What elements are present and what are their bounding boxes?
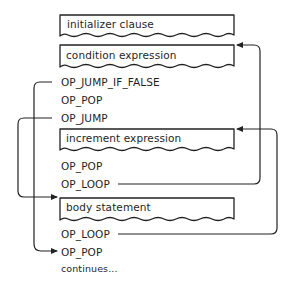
op-loop-label-1: OP_LOOP [61, 178, 110, 190]
initializer-clause-label: initializer clause [67, 18, 154, 30]
loop-to-increment-arrow [118, 129, 277, 234]
op-jump-label: OP_JUMP [61, 112, 108, 124]
condition-expression-label: condition expression [66, 49, 177, 61]
body-statement-label: body statement [66, 201, 151, 213]
op-pop-label-3: OP_POP [61, 246, 102, 258]
continues-label: continues... [61, 263, 118, 275]
jump-arrow [18, 118, 57, 197]
control-flow-diagram [0, 0, 291, 288]
jump-if-false-arrow [34, 82, 57, 251]
op-pop-label-2: OP_POP [61, 160, 102, 172]
op-loop-label-2: OP_LOOP [61, 228, 110, 240]
increment-expression-label: increment expression [66, 132, 181, 144]
op-pop-label-1: OP_POP [61, 94, 102, 106]
op-jump-if-false-label: OP_JUMP_IF_FALSE [61, 76, 160, 88]
